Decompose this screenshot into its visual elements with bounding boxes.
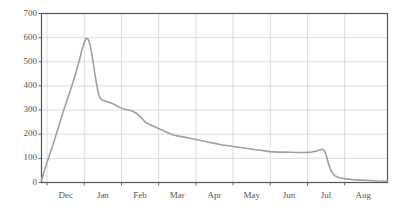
x-tick-label: Apr [195, 190, 235, 200]
y-tick-label: 500 [4, 56, 37, 66]
y-tick-label: 600 [4, 32, 37, 42]
y-tick-label: 700 [4, 8, 37, 18]
y-tick-label: 200 [4, 128, 37, 138]
x-tick-label: May [232, 190, 272, 200]
x-tick-label: Aug [343, 190, 383, 200]
line-chart-plot [0, 0, 405, 214]
y-tick-label: 400 [4, 80, 37, 90]
x-tick-label: Feb [120, 190, 160, 200]
plot-frame [42, 14, 388, 183]
vertical-gridlines [47, 14, 345, 183]
x-tick-label: Jan [83, 190, 123, 200]
x-tick-label: Dec [46, 190, 86, 200]
y-tick-label: 100 [4, 152, 37, 162]
y-tick-label: 300 [4, 104, 37, 114]
y-tick-label: 0 [4, 177, 37, 187]
x-tick-label: Jun [269, 190, 309, 200]
horizontal-gridlines [42, 38, 388, 159]
x-tick-label: Mar [157, 190, 197, 200]
x-tick-label: Jul [306, 190, 346, 200]
chart-container: 0100200300400500600700 DecJanFebMarAprMa… [0, 0, 405, 214]
